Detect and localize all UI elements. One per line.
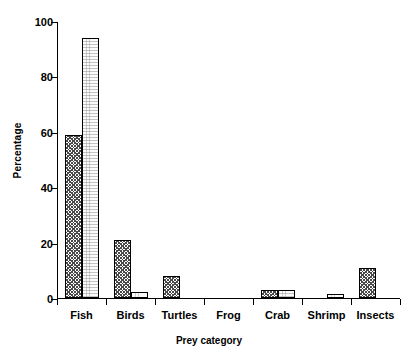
bar-chart: Percentage 020406080100 FishBirdsTurtles… <box>0 0 418 359</box>
x-axis-tick-mark <box>155 299 156 305</box>
y-axis-tick-label: 80 <box>41 71 53 83</box>
plot-area: 020406080100 <box>57 22 400 299</box>
x-axis-category-label: Fish <box>70 309 93 321</box>
bar <box>261 290 278 298</box>
y-axis-tick-label: 40 <box>41 182 53 194</box>
bar <box>359 268 376 298</box>
x-axis-category-label: Crab <box>265 309 290 321</box>
x-axis-tick-mark <box>253 299 254 305</box>
bar <box>278 290 295 298</box>
x-axis-category-label: Shrimp <box>308 309 346 321</box>
bar <box>65 135 82 298</box>
y-axis-tick-label: 20 <box>41 238 53 250</box>
x-axis-tick-mark <box>351 299 352 305</box>
bar <box>327 294 344 298</box>
bar <box>114 240 131 298</box>
bar <box>163 276 180 298</box>
x-axis-tick-mark <box>106 299 107 305</box>
y-axis-tick-label: 100 <box>35 16 53 28</box>
y-axis-tick-label: 60 <box>41 127 53 139</box>
bar <box>82 38 99 298</box>
x-axis-tick-mark <box>204 299 205 305</box>
x-axis-category-label: Frog <box>216 309 240 321</box>
bar <box>131 292 148 298</box>
y-axis-line <box>57 22 58 299</box>
x-axis-label: Prey category <box>0 335 418 346</box>
x-axis-tick-mark <box>302 299 303 305</box>
x-axis-category-label: Turtles <box>162 309 198 321</box>
x-axis-category-label: Insects <box>357 309 395 321</box>
x-axis-category-label: Birds <box>116 309 144 321</box>
y-axis-label: Percentage <box>12 96 23 206</box>
y-axis-tick-label: 0 <box>47 293 53 305</box>
x-axis-tick-mark <box>400 299 401 305</box>
x-axis-tick-mark <box>57 299 58 305</box>
x-axis-line <box>57 298 400 299</box>
